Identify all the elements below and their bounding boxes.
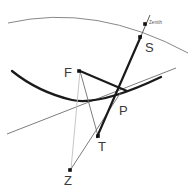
sight-line-s-to-t xyxy=(97,36,141,137)
geometry-figure: S F P T Z Zenith xyxy=(0,0,188,191)
chord-z-to-p xyxy=(71,92,121,169)
point-label-p: P xyxy=(119,104,128,117)
parabola-curve xyxy=(12,71,161,101)
chord-f-to-t xyxy=(80,71,98,136)
point-marker-zenith xyxy=(143,22,147,26)
figure-canvas xyxy=(0,0,188,191)
chord-f-to-p xyxy=(80,71,127,91)
point-label-z: Z xyxy=(64,174,72,187)
point-label-t: T xyxy=(98,140,106,153)
point-label-f: F xyxy=(64,66,72,79)
chord-f-to-z xyxy=(71,71,80,169)
point-label-zenith: Zenith xyxy=(149,21,162,26)
point-marker-t xyxy=(96,134,100,138)
point-label-s: S xyxy=(145,41,154,54)
point-marker-s xyxy=(138,35,142,39)
point-marker-f xyxy=(77,69,81,73)
point-marker-z xyxy=(68,168,72,172)
